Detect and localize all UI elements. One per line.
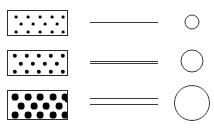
- particle-dot: [31, 103, 38, 110]
- particle-dot: [56, 103, 63, 110]
- particle-dot: [12, 112, 19, 119]
- particle-dot: [43, 103, 50, 110]
- specimen-rectangle: [7, 90, 68, 120]
- rule-line: [90, 104, 158, 105]
- particle-dot: [65, 96, 68, 103]
- outline-circle: [174, 85, 210, 121]
- particle-dot: [25, 94, 32, 101]
- particle-dot: [50, 112, 57, 119]
- particle-dot: [18, 103, 25, 110]
- particle-dot: [37, 94, 44, 101]
- rule-line-group: [90, 98, 158, 105]
- particle-dot: [37, 112, 44, 119]
- particle-dot: [12, 94, 19, 101]
- rule-line: [90, 98, 158, 99]
- diagram-row: [0, 0, 214, 130]
- diagram-canvas: [0, 0, 214, 130]
- particle-dot: [62, 112, 68, 119]
- particle-dot: [25, 112, 32, 119]
- particle-dot: [50, 94, 57, 101]
